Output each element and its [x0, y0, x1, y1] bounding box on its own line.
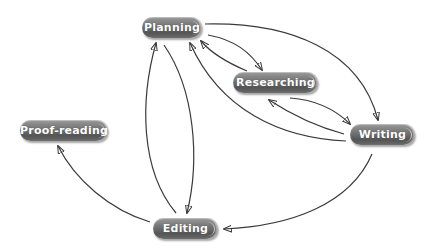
edge-researching-to-planning — [201, 41, 247, 71]
node-editing: Editing — [153, 218, 218, 239]
edge-editing-to-planning — [146, 43, 176, 213]
node-researching: Researching — [233, 72, 318, 93]
node-planning: Planning — [142, 17, 202, 38]
edge-writing-to-editing — [224, 154, 372, 229]
edge-writing-to-researching — [269, 100, 344, 134]
edge-planning-to-researching — [208, 35, 262, 70]
writing-process-diagram: Planning Researching Writing Proof-readi… — [0, 0, 435, 246]
node-proofreading: Proof-reading — [20, 120, 108, 141]
edge-editing-to-proofreading — [58, 146, 150, 222]
edge-researching-to-writing — [290, 98, 350, 124]
node-writing: Writing — [350, 124, 415, 145]
edge-planning-to-editing — [164, 45, 194, 213]
